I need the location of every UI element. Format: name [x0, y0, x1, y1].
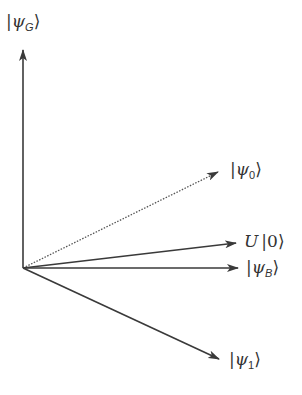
label-psi-0: |ψ0⟩: [230, 161, 262, 178]
label-psi-b: |ψB⟩: [246, 259, 279, 276]
vector-psi-0: [23, 172, 218, 268]
vector-u0: [23, 243, 236, 268]
label-psi-g: |ψG⟩: [6, 13, 40, 30]
vector-psi-1: [23, 268, 219, 359]
vector-diagram: |ψG⟩ |ψ0⟩ U|0⟩ |ψB⟩ |ψ1⟩: [0, 0, 302, 395]
label-u0: U|0⟩: [244, 233, 285, 250]
vector-canvas: [0, 0, 302, 395]
label-psi-1: |ψ1⟩: [229, 351, 261, 368]
